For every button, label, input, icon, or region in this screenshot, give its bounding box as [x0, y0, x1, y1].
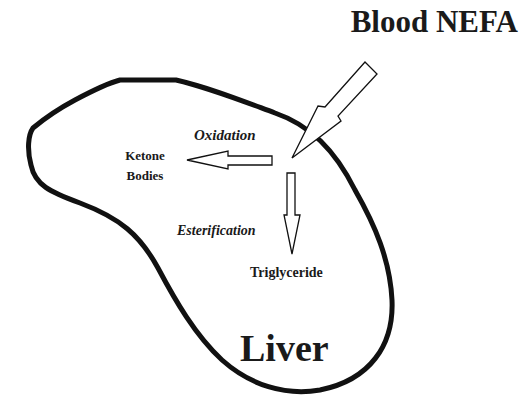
- esterification-label: Esterification: [176, 223, 256, 238]
- liver-label: Liver: [240, 327, 329, 369]
- oxidation-arrow: [187, 151, 272, 169]
- nefa-liver-diagram: Blood NEFA Oxidation Ketone Bodies Ester…: [0, 0, 521, 398]
- ketone-bodies-label-line1: Ketone: [125, 148, 165, 163]
- esterification-arrow: [284, 173, 300, 254]
- oxidation-label: Oxidation: [194, 127, 256, 143]
- blood-nefa-title: Blood NEFA: [351, 4, 519, 39]
- triglyceride-label: Triglyceride: [250, 265, 323, 280]
- ketone-bodies-label-line2: Bodies: [127, 168, 164, 183]
- nefa-inflow-arrow: [292, 62, 377, 158]
